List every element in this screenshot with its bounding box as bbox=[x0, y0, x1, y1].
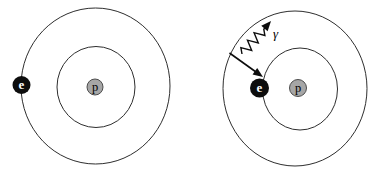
left-proton-label: p bbox=[92, 80, 98, 94]
atom-diagrams-svg: p e γ p e bbox=[0, 0, 380, 177]
right-electron-label: e bbox=[257, 80, 263, 95]
right-proton-label: p bbox=[295, 81, 301, 95]
bohr-model-figure: p e γ p e bbox=[0, 0, 380, 177]
atom-left: p e bbox=[13, 8, 171, 164]
left-electron-label: e bbox=[19, 77, 25, 92]
photon-wavy-arrow bbox=[238, 18, 275, 58]
photon-gamma-label: γ bbox=[273, 26, 279, 41]
transition-arrow-line bbox=[230, 53, 257, 72]
atom-right: γ p e bbox=[223, 11, 367, 166]
